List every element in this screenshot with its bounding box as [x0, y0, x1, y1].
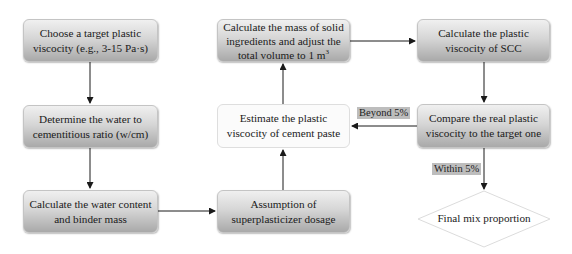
node-calc-water-binder-text: Calculate the water content and binder m…: [27, 197, 154, 227]
node-assume-superplasticizer: Assumption of superplasticizer dosage: [217, 190, 350, 233]
node-choose-target: Choose a target plastic viscocity (e.g.,…: [23, 19, 158, 62]
node-compare: Compare the real plastic viscocity to th…: [417, 104, 550, 148]
edge-label-within: Within 5%: [432, 163, 481, 175]
node-estimate-paste: Estimate the plastic viscocity of cement…: [217, 104, 350, 148]
node-calc-solid-mass: Calculate the mass of solid ingredients …: [217, 19, 350, 62]
node-estimate-paste-text: Estimate the plastic viscocity of cement…: [221, 111, 346, 141]
edge-label-beyond: Beyond 5%: [357, 107, 410, 119]
node-calc-solid-mass-text: Calculate the mass of solid ingredients …: [221, 20, 346, 62]
node-determine-wcm: Determine the water to cementitious rati…: [23, 105, 158, 148]
node-determine-wcm-text: Determine the water to cementitious rati…: [27, 112, 154, 142]
node-compare-text: Compare the real plastic viscocity to th…: [421, 111, 546, 141]
node-final-text: Final mix proportion: [424, 212, 544, 224]
node-calc-scc-text: Calculate the plastic viscocity of SCC: [421, 26, 546, 56]
cubic-superscript: 3: [326, 48, 330, 56]
node-calc-scc: Calculate the plastic viscocity of SCC: [417, 19, 550, 62]
node-assume-superplasticizer-text: Assumption of superplasticizer dosage: [221, 197, 346, 227]
node-calc-water-binder: Calculate the water content and binder m…: [23, 190, 158, 233]
node-choose-target-text: Choose a target plastic viscocity (e.g.,…: [27, 26, 154, 56]
